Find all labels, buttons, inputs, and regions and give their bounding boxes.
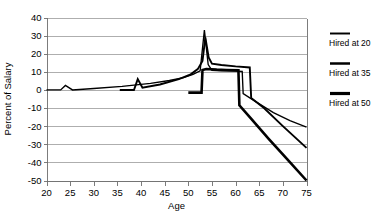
legend-item: Hired at 35 (329, 64, 371, 79)
y-tick-label: -10 (28, 102, 42, 113)
y-axis-tick-labels: 403020100-10-20-30-40-50 (28, 12, 42, 186)
legend-label: Hired at 35 (329, 68, 371, 78)
data-series-group (47, 30, 307, 180)
y-tick-label: -50 (28, 175, 42, 186)
x-axis-tick-labels: 202530354045505560657075 (41, 187, 312, 198)
y-tick-label: -40 (28, 157, 42, 168)
y-tick-label: -20 (28, 121, 42, 132)
x-tick-label: 30 (88, 187, 99, 198)
legend-label: Hired at 50 (329, 98, 371, 108)
y-tick-label: 20 (31, 48, 42, 59)
x-tick-label: 35 (112, 187, 123, 198)
x-tick-label: 60 (230, 187, 241, 198)
y-axis-title: Percent of Salary (2, 62, 13, 135)
y-tick-label: -30 (28, 139, 42, 150)
x-tick-label: 50 (183, 187, 194, 198)
x-axis-title: Age (168, 200, 185, 211)
y-tick-label: 30 (31, 30, 42, 41)
x-tick-label: 20 (41, 187, 52, 198)
chart-legend: Hired at 20Hired at 35Hired at 50 (329, 34, 371, 109)
y-tick-label: 10 (31, 66, 42, 77)
axis-lines (48, 19, 308, 182)
x-tick-label: 55 (207, 187, 218, 198)
legend-label: Hired at 20 (329, 38, 371, 48)
x-tick-label: 25 (65, 187, 76, 198)
series-line (120, 37, 307, 147)
x-tick-label: 40 (136, 187, 147, 198)
x-tick-label: 45 (159, 187, 170, 198)
x-tick-label: 65 (254, 187, 265, 198)
legend-item: Hired at 20 (329, 34, 371, 49)
gridlines (47, 19, 307, 182)
x-tick-label: 70 (278, 187, 289, 198)
legend-item: Hired at 50 (329, 94, 371, 109)
chart-canvas: 403020100-10-20-30-40-50 202530354045505… (0, 0, 386, 217)
tick-marks (44, 19, 308, 186)
y-tick-label: 40 (31, 12, 42, 23)
y-tick-label: 0 (36, 84, 41, 95)
series-line (188, 69, 306, 181)
x-tick-label: 75 (301, 187, 312, 198)
line-chart: 403020100-10-20-30-40-50 202530354045505… (0, 0, 386, 217)
